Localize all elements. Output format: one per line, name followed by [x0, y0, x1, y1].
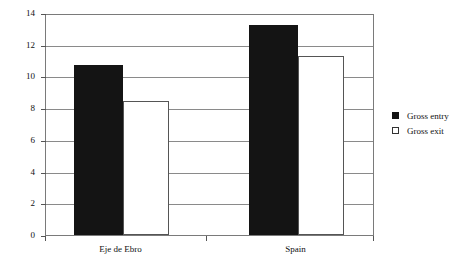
chart-container: 02468101214 Eje de EbroSpain Gross entry… [0, 0, 461, 266]
y-axis-label: 6 [0, 136, 35, 145]
y-axis-tick [41, 173, 46, 174]
plot-area [45, 14, 374, 236]
x-axis-label: Spain [285, 244, 306, 254]
gridline [46, 46, 373, 47]
y-axis-tick [41, 77, 46, 78]
y-axis-tick [41, 14, 46, 15]
legend-item-gross-exit: Gross exit [392, 123, 461, 138]
x-axis-tick [206, 236, 207, 241]
bar-gross-entry [74, 65, 123, 235]
bar-gross-entry [249, 25, 298, 235]
y-axis-label: 0 [0, 231, 35, 240]
x-axis-tick [373, 236, 374, 241]
y-axis-label: 8 [0, 104, 35, 113]
legend-item-gross-entry: Gross entry [392, 108, 461, 123]
y-axis-label: 2 [0, 199, 35, 208]
legend-swatch-open-square-icon [392, 127, 399, 134]
bar-gross-exit [298, 56, 344, 235]
y-axis-tick [41, 141, 46, 142]
y-axis-label: 4 [0, 168, 35, 177]
bar-gross-exit [123, 101, 169, 235]
y-axis-label: 10 [0, 72, 35, 81]
legend-swatch-filled-square-icon [392, 112, 399, 119]
legend-label-gross-entry: Gross entry [407, 111, 449, 121]
y-axis-label: 12 [0, 41, 35, 50]
y-axis-tick [41, 204, 46, 205]
chart-legend: Gross entry Gross exit [392, 108, 461, 138]
y-axis-label: 14 [0, 9, 35, 18]
legend-label-gross-exit: Gross exit [407, 126, 444, 136]
x-axis-label: Eje de Ebro [99, 244, 141, 254]
y-axis-tick [41, 109, 46, 110]
x-axis-tick [45, 236, 46, 241]
x-axis: Eje de EbroSpain [45, 236, 374, 266]
y-axis-tick [41, 46, 46, 47]
